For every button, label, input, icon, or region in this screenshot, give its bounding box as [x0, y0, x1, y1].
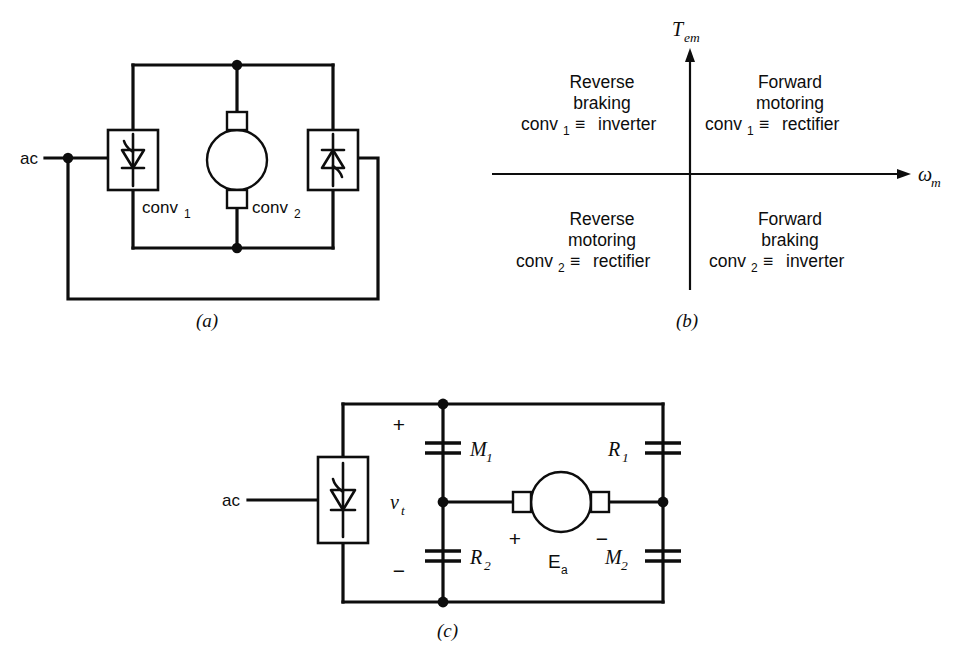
quadrant-3-device: conv: [516, 251, 553, 271]
quadrant-2-line1: Reverse: [569, 72, 634, 92]
panel-c-label-r2-subscript: 2: [484, 558, 491, 573]
panel-c-emf-minus: −: [596, 527, 608, 550]
panel-a-conv2-subscript: 2: [294, 207, 301, 221]
panel-b-y-axis-sublabel: em: [684, 30, 700, 45]
quadrant-3-mode: rectifier: [593, 251, 651, 271]
quadrant-1-mode: rectifier: [782, 114, 840, 134]
panel-b-y-axis-arrowhead: [685, 48, 695, 62]
panel-a-caption: (a): [196, 310, 218, 332]
panel-b-caption: (b): [676, 310, 698, 332]
quadrant-4-device: conv: [709, 251, 746, 271]
panel-b: T em ω m Reverse braking conv 1 ≡ invert…: [492, 18, 941, 332]
quadrant-4-line1: Forward: [758, 209, 822, 229]
quadrant-1-device: conv: [705, 114, 742, 134]
quadrant-2-mode: inverter: [598, 114, 657, 134]
quadrant-1-device-subscript: 1: [747, 124, 754, 138]
panel-c-terminal-voltage-subscript: t: [401, 503, 406, 518]
panel-a-ac-node-dot: [63, 153, 73, 163]
panel-b-x-axis-arrowhead: [897, 169, 911, 179]
quadrant-4-equiv-sign: ≡: [763, 251, 773, 271]
panel-c-label-r2: R: [469, 546, 482, 568]
quadrant-4-line3: conv 2 ≡ inverter: [709, 251, 845, 275]
quadrant-2-line2: braking: [573, 93, 630, 113]
quadrant-2-equiv-sign: ≡: [575, 114, 585, 134]
panel-a-bottom-node-dot: [232, 243, 242, 253]
dc-motor-symbol-a: [207, 112, 267, 208]
panel-c-terminal-voltage-label: v: [390, 491, 399, 513]
panel-c-emf-subscript: a: [561, 563, 568, 577]
panel-c-node-middle-left: [438, 497, 449, 508]
panel-a: ac conv 1 conv 2 (a): [20, 60, 378, 332]
panel-c-label-m2-subscript: 2: [621, 558, 628, 573]
panel-a-top-node-dot: [232, 60, 242, 70]
panel-a-conv1-label: conv: [142, 198, 178, 217]
quadrant-1-equiv-sign: ≡: [759, 114, 769, 134]
quadrant-3-line1: Reverse: [569, 209, 634, 229]
panel-c: ac + v t − M 1 R 1 R 2 M 2 + − E a: [222, 399, 681, 642]
panel-c-terminal-plus: +: [393, 413, 405, 436]
quadrant-3-line3: conv 2 ≡ rectifier: [516, 251, 651, 275]
quadrant-2-device-subscript: 1: [563, 124, 570, 138]
quadrant-3-device-subscript: 2: [558, 261, 565, 275]
panel-b-quadrant-1: Forward motoring conv 1 ≡ rectifier: [705, 72, 840, 138]
panel-c-label-r1-subscript: 1: [622, 450, 629, 465]
quadrant-4-line2: braking: [761, 230, 818, 250]
quadrant-3-line2: motoring: [568, 230, 636, 250]
panel-b-quadrant-3: Reverse motoring conv 2 ≡ rectifier: [516, 209, 651, 275]
panel-c-emf-plus: +: [509, 527, 521, 550]
panel-c-node-top: [438, 399, 449, 410]
quadrant-4-mode: inverter: [786, 251, 845, 271]
quadrant-1-line2: motoring: [756, 93, 824, 113]
figure-root: ac conv 1 conv 2 (a) T em ω m: [0, 0, 954, 652]
panel-a-conv1-subscript: 1: [184, 207, 191, 221]
panel-b-x-axis-label: ω: [918, 163, 932, 185]
quadrant-2-device: conv: [521, 114, 558, 134]
dc-motor-symbol-c: [513, 472, 609, 532]
quadrant-4-device-subscript: 2: [751, 261, 758, 275]
panel-c-node-middle-right: [658, 497, 669, 508]
panel-a-conv2-label: conv: [252, 198, 288, 217]
panel-c-ac-label: ac: [222, 491, 240, 510]
panel-c-label-r1: R: [607, 438, 620, 460]
bottom-caption-strip: [0, 636, 954, 652]
quadrant-3-equiv-sign: ≡: [570, 251, 580, 271]
quadrant-2-line3: conv 1 ≡ inverter: [521, 114, 657, 138]
panel-b-x-axis-sublabel: m: [931, 175, 941, 190]
panel-c-label-m1-subscript: 1: [486, 450, 493, 465]
panel-a-ac-label: ac: [20, 149, 38, 168]
quadrant-1-line3: conv 1 ≡ rectifier: [705, 114, 840, 138]
panel-c-emf-label: E: [548, 551, 561, 572]
panel-b-quadrant-4: Forward braking conv 2 ≡ inverter: [709, 209, 845, 275]
panel-b-quadrant-2: Reverse braking conv 1 ≡ inverter: [521, 72, 657, 138]
panel-c-node-bottom: [438, 597, 449, 608]
figure-canvas: ac conv 1 conv 2 (a) T em ω m: [0, 0, 954, 652]
panel-c-terminal-minus: −: [393, 559, 405, 582]
quadrant-1-line1: Forward: [758, 72, 822, 92]
